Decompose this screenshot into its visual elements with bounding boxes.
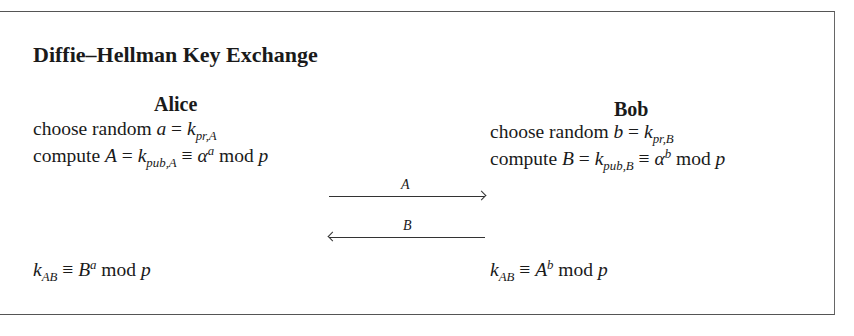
figure-title: Diffie–Hellman Key Exchange xyxy=(33,42,318,68)
message-a-label: A xyxy=(401,177,410,193)
alice-choose-line: choose random a = kpr,A xyxy=(33,118,217,140)
alice-heading: Alice xyxy=(154,93,197,116)
bob-heading: Bob xyxy=(614,98,648,121)
arrow-bob-to-alice xyxy=(329,237,485,238)
bob-shared-key: kAB ≡ Ab mod p xyxy=(490,259,608,281)
arrow-alice-to-bob xyxy=(329,196,485,197)
bob-compute-line: compute B = kpub,B ≡ αb mod p xyxy=(490,148,725,170)
alice-compute-line: compute A = kpub,A ≡ αa mod p xyxy=(33,145,268,167)
bob-choose-line: choose random b = kpr,B xyxy=(490,121,674,143)
alice-shared-key: kAB ≡ Ba mod p xyxy=(33,259,151,281)
message-b-label: B xyxy=(403,218,412,234)
